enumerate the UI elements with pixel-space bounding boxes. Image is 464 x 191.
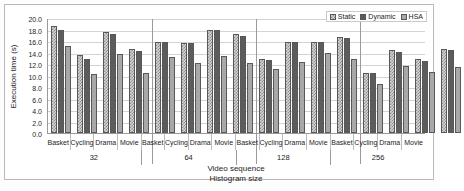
sequence-bar-group — [230, 19, 256, 133]
bar-dynamic — [396, 52, 402, 133]
bar-dynamic — [188, 43, 194, 133]
histogram-size-group — [48, 19, 152, 133]
bar-static — [285, 42, 291, 133]
figure-frame: Execution time (s) 20.018.016.014.012.01… — [4, 4, 434, 180]
x-tick-label-sequence: Movie — [212, 134, 236, 150]
legend: StaticDynamicHSA — [326, 11, 427, 22]
bar-static — [181, 43, 187, 133]
x-tick-label-sequence: Basket — [236, 134, 260, 150]
bar-hsa — [221, 56, 227, 133]
sequence-bar-group — [48, 19, 74, 133]
x-axis-title-histogram-size: Histogram size — [47, 174, 425, 183]
sequence-label-group: BasketCyclingDramaMovie — [47, 134, 142, 150]
bar-static — [129, 49, 135, 133]
bar-dynamic — [422, 61, 428, 133]
x-tick-label-sequence: Cycling — [260, 134, 284, 150]
bar-dynamic — [448, 50, 454, 133]
bar-dynamic — [214, 30, 220, 133]
x-tick-label-histogram-size: 128 — [237, 150, 332, 165]
bar-static — [441, 49, 447, 133]
bar-dynamic — [240, 36, 246, 133]
bar-dynamic — [318, 42, 324, 133]
bar-hsa — [403, 66, 409, 133]
x-tick-label-histogram-size: 64 — [142, 150, 237, 165]
bar-hsa — [377, 84, 383, 133]
x-tick-label-sequence: Drama — [378, 134, 402, 150]
x-tick-label-sequence: Cycling — [165, 134, 189, 150]
y-tick-label: 12.0 — [28, 62, 42, 69]
bar-static — [207, 30, 213, 134]
sequence-bar-group — [360, 19, 386, 133]
bar-dynamic — [370, 73, 376, 133]
sequence-bar-group — [308, 19, 334, 133]
plot-area — [47, 19, 425, 134]
bar-hsa — [247, 63, 253, 133]
sequence-bar-group — [256, 19, 282, 133]
bar-hsa — [169, 57, 175, 133]
x-tick-label-sequence: Basket — [47, 134, 71, 150]
sequence-bar-group — [282, 19, 308, 133]
legend-item[interactable]: Static — [330, 13, 356, 20]
bar-hsa — [273, 69, 279, 133]
x-axis-sequence-labels: BasketCyclingDramaMovieBasketCyclingDram… — [47, 134, 425, 150]
bar-static — [337, 37, 343, 133]
bar-static — [155, 42, 161, 133]
sequence-bar-group — [438, 19, 464, 133]
y-tick-label: 20.0 — [28, 16, 42, 23]
sequence-bar-group — [152, 19, 178, 133]
x-tick-label-sequence: Cycling — [71, 134, 95, 150]
x-tick-label-sequence: Movie — [307, 134, 331, 150]
x-tick-label-sequence: Movie — [402, 134, 425, 150]
bar-dynamic — [136, 51, 142, 133]
bar-dynamic — [344, 38, 350, 133]
legend-swatch-static — [330, 14, 336, 20]
bar-hsa — [143, 73, 149, 133]
x-tick-label-sequence: Movie — [118, 134, 142, 150]
y-tick-label: 6.0 — [32, 96, 42, 103]
x-axis-histogram-size-labels: 3264128256 — [47, 150, 425, 165]
bar-hsa — [65, 46, 71, 133]
x-axis-title-video-sequence: Video sequence — [47, 164, 425, 173]
sequence-bar-group — [412, 19, 438, 133]
bar-dynamic — [58, 30, 64, 134]
sequence-label-group: BasketCyclingDramaMovie — [236, 134, 331, 150]
bar-dynamic — [84, 59, 90, 133]
sequence-bar-group — [100, 19, 126, 133]
bar-dynamic — [162, 42, 168, 133]
bar-static — [389, 50, 395, 133]
x-tick-label-sequence: Drama — [189, 134, 213, 150]
bar-static — [415, 59, 421, 133]
legend-label: Static — [338, 13, 356, 20]
y-tick-label: 0.0 — [32, 131, 42, 138]
bar-hsa — [299, 62, 305, 133]
y-tick-label: 2.0 — [32, 119, 42, 126]
x-tick-label-sequence: Basket — [142, 134, 166, 150]
x-tick-label-sequence: Cycling — [354, 134, 378, 150]
legend-item[interactable]: HSA — [401, 13, 423, 20]
y-axis-tick-labels: 20.018.016.014.012.010.08.06.04.02.00.0 — [5, 19, 45, 134]
sequence-bar-group — [386, 19, 412, 133]
sequence-bar-group — [178, 19, 204, 133]
y-tick-label: 8.0 — [32, 85, 42, 92]
x-tick-label-sequence: Basket — [331, 134, 355, 150]
histogram-size-group — [256, 19, 360, 133]
x-tick-label-sequence: Drama — [283, 134, 307, 150]
bar-static — [103, 32, 109, 133]
legend-swatch-hsa — [401, 14, 407, 20]
legend-item[interactable]: Dynamic — [360, 13, 395, 20]
legend-swatch-dynamic — [360, 14, 366, 20]
x-tick-label-sequence: Drama — [94, 134, 118, 150]
bar-hsa — [195, 63, 201, 133]
legend-label: HSA — [409, 13, 423, 20]
bar-static — [77, 55, 83, 133]
bar-static — [51, 26, 57, 133]
sequence-bar-group — [334, 19, 360, 133]
y-tick-label: 16.0 — [28, 39, 42, 46]
y-tick-label: 10.0 — [28, 73, 42, 80]
x-tick-label-histogram-size: 256 — [331, 150, 425, 165]
histogram-size-group — [360, 19, 464, 133]
sequence-bar-group — [74, 19, 100, 133]
bar-groups — [48, 19, 425, 133]
sequence-bar-group — [126, 19, 152, 133]
